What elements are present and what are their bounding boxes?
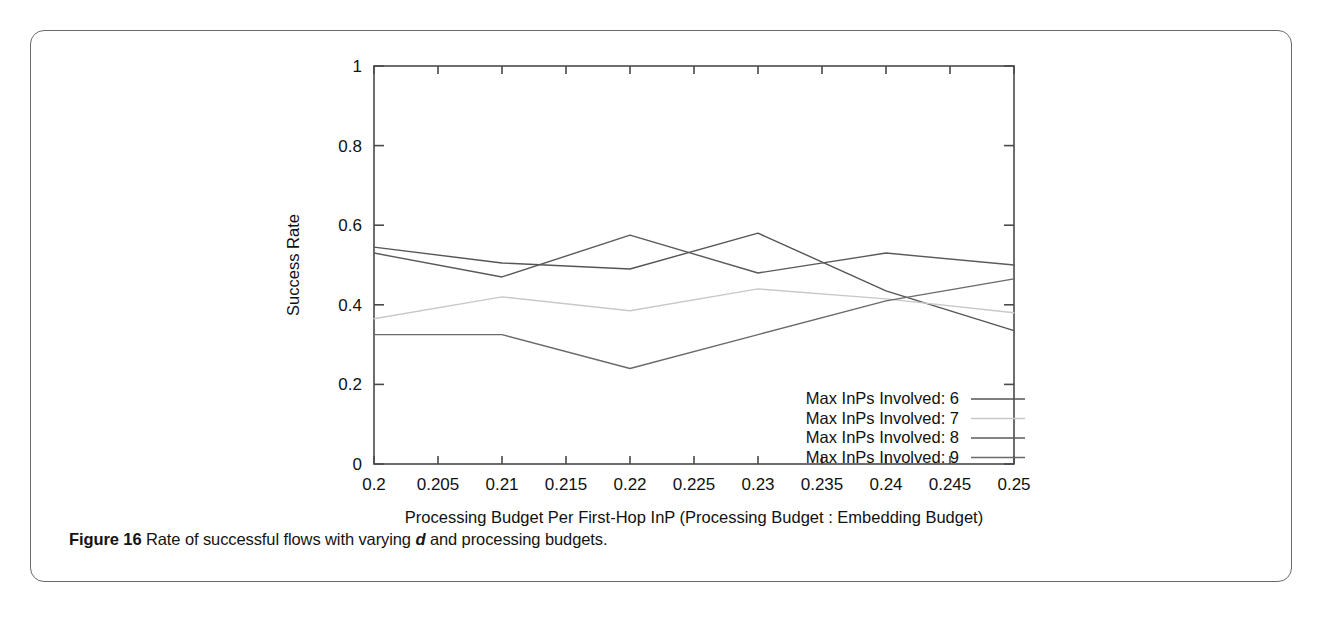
y-tick-label: 1	[353, 57, 362, 76]
caption-emphasis: d	[415, 530, 425, 548]
y-tick-label: 0.2	[338, 375, 362, 394]
legend-label-3: Max InPs Involved: 8	[806, 428, 959, 446]
x-axis-tick-labels: 0.20.2050.210.2150.220.2250.230.2350.240…	[362, 475, 1030, 494]
y-axis-tick-labels: 00.20.40.60.81	[338, 57, 362, 474]
chart-plot-area: 0.20.2050.210.2150.220.2250.230.2350.240…	[31, 31, 1293, 531]
y-tick-label: 0.4	[338, 296, 362, 315]
legend-label-4: Max InPs Involved: 9	[806, 448, 959, 466]
chart-legend: Max InPs Involved: 6Max InPs Involved: 7…	[806, 389, 1025, 466]
y-tick-label: 0.8	[338, 137, 362, 156]
x-tick-label: 0.225	[673, 475, 716, 494]
x-axis-title: Processing Budget Per First-Hop InP (Pro…	[405, 508, 983, 526]
x-tick-label: 0.24	[869, 475, 902, 494]
x-tick-label: 0.25	[997, 475, 1030, 494]
series-line-2	[374, 289, 1014, 319]
x-tick-label: 0.235	[801, 475, 844, 494]
legend-label-1: Max InPs Involved: 6	[806, 389, 959, 407]
x-tick-label: 0.2	[362, 475, 386, 494]
caption-text-before: Rate of successful flows with varying	[146, 530, 411, 548]
series-line-4	[374, 279, 1014, 369]
x-tick-label: 0.22	[613, 475, 646, 494]
line-chart: 0.20.2050.210.2150.220.2250.230.2350.240…	[31, 31, 1293, 531]
figure-card: 0.20.2050.210.2150.220.2250.230.2350.240…	[30, 30, 1292, 582]
x-tick-label: 0.245	[929, 475, 972, 494]
y-axis-title: Success Rate	[284, 214, 302, 316]
caption-text-after: and processing budgets.	[430, 530, 608, 548]
x-tick-label: 0.23	[741, 475, 774, 494]
x-tick-label: 0.215	[545, 475, 588, 494]
x-tick-label: 0.205	[417, 475, 460, 494]
legend-label-2: Max InPs Involved: 7	[806, 409, 959, 427]
caption-figure-number: Figure 16	[69, 530, 141, 548]
series-line-3	[374, 235, 1014, 277]
data-series-group	[374, 233, 1014, 368]
y-tick-label: 0	[353, 455, 362, 474]
series-line-1	[374, 233, 1014, 331]
x-tick-label: 0.21	[485, 475, 518, 494]
figure-caption: Figure 16 Rate of successful flows with …	[69, 529, 1249, 550]
y-tick-label: 0.6	[338, 216, 362, 235]
